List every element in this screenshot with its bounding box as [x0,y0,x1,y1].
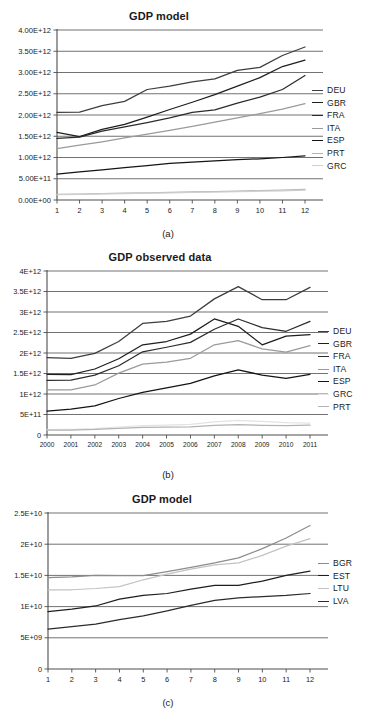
svg-text:5.00E+11: 5.00E+11 [19,174,51,183]
svg-text:2: 2 [77,206,81,215]
legend-item-grc[interactable]: GRC [318,388,353,401]
legend-item-lva[interactable]: LVA [318,595,352,608]
svg-text:4.00E+12: 4.00E+12 [18,26,51,35]
legend-item-ltu[interactable]: LTU [318,582,352,595]
svg-text:1.5E+12: 1.5E+12 [13,369,41,378]
legend-item-deu[interactable]: DEU [312,84,347,97]
chart-title-a: GDP model [0,10,376,22]
legend-swatch-ltu-icon [318,588,329,589]
svg-text:6: 6 [168,206,172,215]
legend-swatch-gbr-icon [318,343,329,344]
svg-text:1.50E+12: 1.50E+12 [18,132,51,141]
svg-text:2004: 2004 [135,441,150,448]
caption-c: (c) [0,697,376,708]
figure-panel-b: GDP observed data 05E+111E+121.5E+122E+1… [0,245,376,485]
legend-item-bgr[interactable]: BGR [318,557,352,570]
svg-text:10: 10 [258,675,266,684]
svg-text:9: 9 [235,206,239,215]
legend-label: LTU [333,582,349,595]
svg-text:4: 4 [117,675,121,684]
chart-title-b: GDP observed data [0,251,376,263]
legend-swatch-lva-icon [318,601,329,602]
svg-text:2009: 2009 [255,441,270,448]
legend-label: DEU [327,84,346,97]
svg-text:3: 3 [100,206,104,215]
svg-text:2: 2 [70,675,74,684]
svg-text:0: 0 [38,665,42,674]
svg-text:2.5E+10: 2.5E+10 [14,509,42,518]
svg-text:1: 1 [55,206,59,215]
svg-text:4: 4 [123,206,127,215]
svg-text:2001: 2001 [64,441,79,448]
svg-text:2.50E+12: 2.50E+12 [18,89,51,98]
legend-label: PRT [333,401,351,414]
svg-text:8: 8 [213,675,217,684]
legend-swatch-esp-icon [318,381,329,382]
svg-text:5E+09: 5E+09 [20,633,42,642]
legend-item-deu[interactable]: DEU [318,325,353,338]
svg-text:5E+11: 5E+11 [20,410,41,419]
svg-text:12: 12 [301,206,309,215]
svg-text:12: 12 [306,675,314,684]
svg-text:2005: 2005 [159,441,174,448]
svg-text:2000: 2000 [40,441,55,448]
svg-text:3.5E+12: 3.5E+12 [13,287,41,296]
legend-label: FRA [327,109,345,122]
legend-item-gbr[interactable]: GBR [318,338,353,351]
svg-text:10: 10 [256,206,264,215]
legend-item-ita[interactable]: ITA [312,122,347,135]
svg-text:2.5E+12: 2.5E+12 [13,328,41,337]
legend-c: BGRESTLTULVA [318,557,352,607]
legend-label: LVA [333,595,349,608]
legend-label: ESP [333,375,351,388]
figure-panel-c: GDP model 05E+091E+101.5E+102E+102.5E+10… [0,485,376,715]
legend-item-gbr[interactable]: GBR [312,97,347,110]
legend-swatch-deu-icon [318,331,329,332]
legend-label: ITA [327,122,340,135]
svg-text:2007: 2007 [207,441,222,448]
svg-text:2003: 2003 [111,441,126,448]
svg-text:3.50E+12: 3.50E+12 [18,47,51,56]
legend-label: BGR [333,557,352,570]
svg-text:5: 5 [145,206,149,215]
legend-item-ita[interactable]: ITA [318,363,353,376]
svg-text:2006: 2006 [183,441,198,448]
svg-text:3E+12: 3E+12 [19,308,41,317]
legend-item-prt[interactable]: PRT [318,401,353,414]
legend-label: DEU [333,325,352,338]
svg-text:6: 6 [165,675,169,684]
svg-text:11: 11 [279,206,287,215]
legend-label: ITA [333,363,346,376]
legend-item-est[interactable]: EST [318,570,352,583]
svg-text:7: 7 [190,206,194,215]
legend-swatch-esp-icon [312,140,323,141]
legend-swatch-est-icon [318,575,329,576]
legend-item-esp[interactable]: ESP [318,375,353,388]
svg-text:0: 0 [37,431,41,440]
legend-item-esp[interactable]: ESP [312,134,347,147]
legend-swatch-ita-icon [312,128,323,129]
legend-item-prt[interactable]: PRT [312,147,347,160]
svg-text:2010: 2010 [279,441,294,448]
svg-text:3: 3 [94,675,98,684]
svg-text:1.5E+10: 1.5E+10 [14,571,42,580]
svg-text:1E+10: 1E+10 [20,602,42,611]
legend-item-fra[interactable]: FRA [318,350,353,363]
legend-b: DEUGBRFRAITAESPGRCPRT [318,325,353,413]
legend-swatch-deu-icon [312,90,323,91]
legend-swatch-grc-icon [312,165,323,166]
svg-text:2E+12: 2E+12 [19,349,41,358]
caption-b: (b) [0,469,376,480]
legend-label: ESP [327,134,345,147]
legend-swatch-ita-icon [318,369,329,370]
legend-swatch-prt-icon [318,406,329,407]
legend-label: GBR [327,97,346,110]
svg-text:11: 11 [282,675,290,684]
svg-text:5: 5 [141,675,145,684]
legend-label: FRA [333,350,351,363]
legend-item-fra[interactable]: FRA [312,109,347,122]
legend-item-grc[interactable]: GRC [312,160,347,173]
svg-text:2E+10: 2E+10 [20,540,42,549]
legend-swatch-gbr-icon [312,102,323,103]
legend-swatch-bgr-icon [318,563,329,564]
